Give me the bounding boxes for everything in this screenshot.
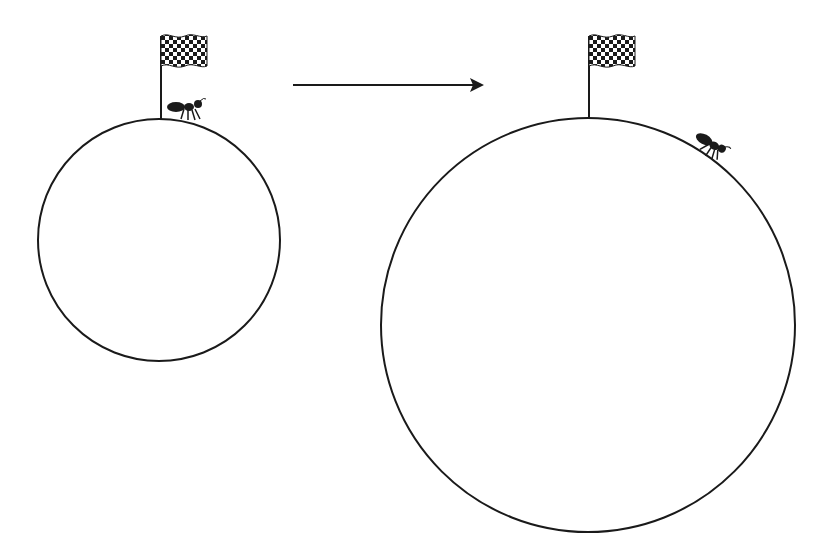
transform-arrow	[293, 78, 484, 92]
large-sphere	[381, 118, 795, 532]
small-sphere	[38, 119, 280, 361]
flag-right	[589, 35, 635, 118]
checkered-flag-icon	[589, 35, 635, 67]
left-scene	[38, 35, 280, 361]
right-scene	[381, 35, 795, 532]
checkered-flag-icon	[161, 35, 207, 67]
ant-icon	[167, 98, 206, 120]
diagram-canvas	[0, 0, 826, 558]
